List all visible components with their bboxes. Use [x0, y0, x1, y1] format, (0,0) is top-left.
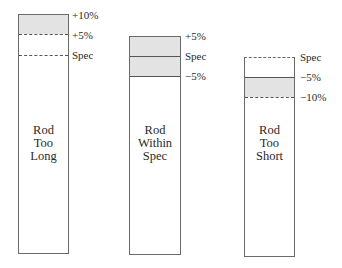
spec-line	[130, 56, 180, 57]
mark-label: +10%	[72, 10, 98, 21]
mark-label: +5%	[72, 30, 93, 41]
rod-too-long: Rod Too Long	[18, 14, 69, 254]
tolerance-band	[245, 78, 294, 97]
rod-within-spec: Rod Within Spec	[129, 36, 181, 255]
mark-label: −5%	[300, 72, 321, 83]
plus-5-line	[19, 34, 68, 35]
spec-line	[19, 55, 68, 56]
tolerance-band	[19, 15, 68, 34]
rod-too-short: Rod Too Short	[244, 57, 295, 257]
mark-label: −5%	[185, 71, 206, 82]
caption-line: Short	[245, 150, 294, 163]
mark-label: Spec	[300, 52, 321, 63]
mark-label: Spec	[185, 51, 206, 62]
caption-line: Long	[19, 150, 68, 163]
mark-label: +5%	[185, 31, 206, 42]
mark-label: Spec	[72, 50, 93, 61]
caption-line: Spec	[130, 150, 180, 163]
rod-caption: Rod Too Short	[245, 124, 294, 163]
mark-label: −10%	[300, 92, 326, 103]
minus-10-line	[245, 97, 294, 98]
minus-5-line	[130, 76, 180, 77]
rod-caption: Rod Too Long	[19, 124, 68, 163]
rod-caption: Rod Within Spec	[130, 124, 180, 163]
